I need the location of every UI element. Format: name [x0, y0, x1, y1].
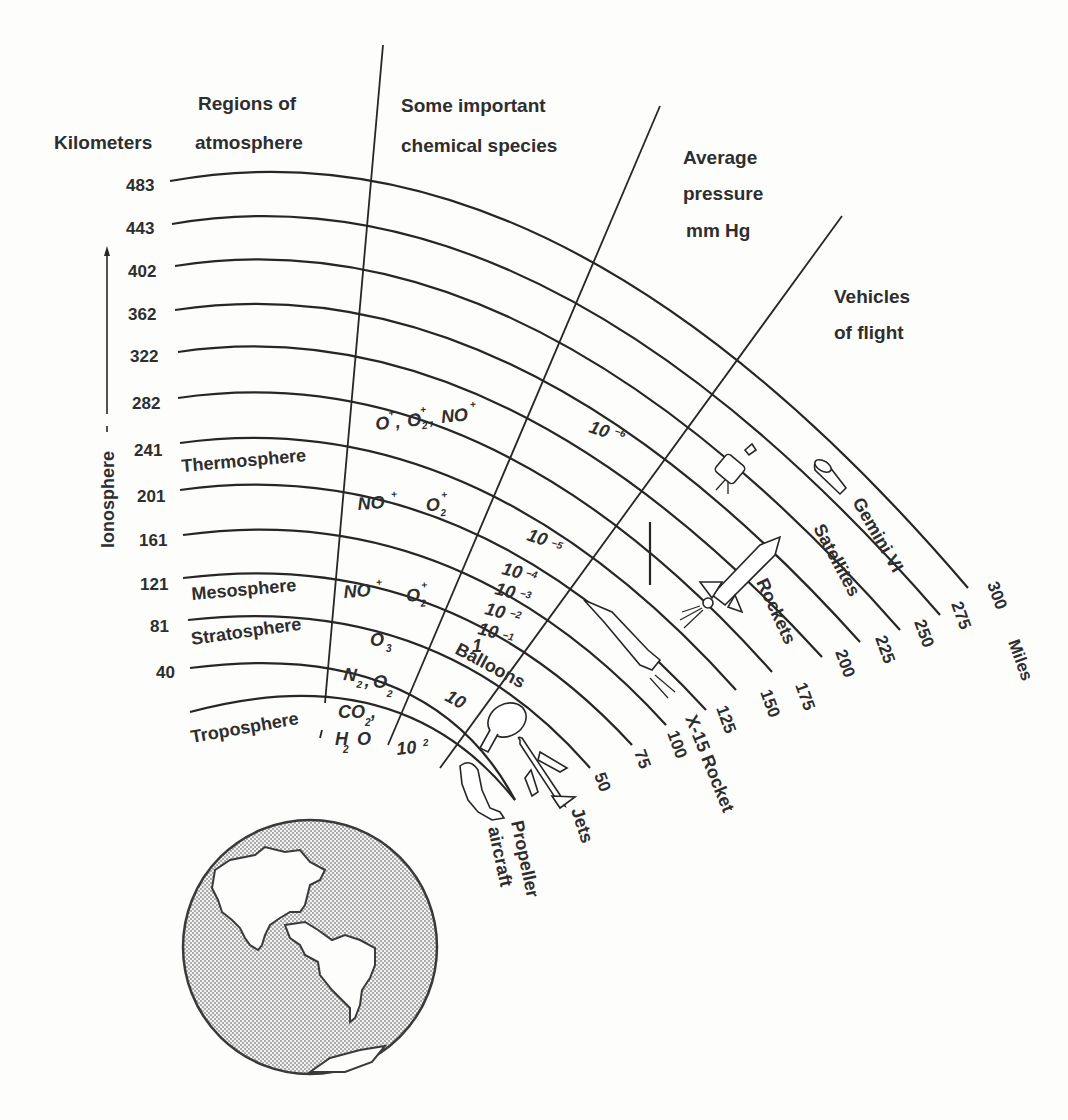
- svg-text:,: ,: [427, 408, 435, 429]
- atmosphere-diagram: Kilometers Regions of atmosphere Some im…: [0, 0, 1068, 1120]
- species-thermosphere-upper: O + , O + 2 , NO +: [374, 398, 478, 436]
- svg-text:+: +: [376, 576, 383, 587]
- pressure-1e2: 10 2: [395, 736, 430, 759]
- pressure-10: 10: [442, 686, 469, 713]
- svg-text:O: O: [370, 630, 384, 650]
- svg-text:O: O: [372, 671, 388, 692]
- km-label: 201: [137, 487, 165, 506]
- globe-icon: [183, 820, 437, 1074]
- vehicle-labels: Balloons Propeller aircraft Jets X-15 Ro…: [452, 494, 907, 899]
- svg-text:NO: NO: [343, 580, 371, 602]
- svg-text:2: 2: [419, 597, 427, 608]
- ionosphere-label: Ionosphere: [98, 451, 118, 548]
- header-regions-line1: Regions of: [198, 93, 297, 114]
- region-labels: Thermosphere Mesosphere Stratosphere Tro…: [181, 445, 307, 747]
- km-label: 282: [132, 394, 160, 413]
- svg-text:+: +: [469, 398, 476, 410]
- divider-tick: [320, 730, 322, 738]
- mile-label: 100: [663, 728, 691, 761]
- species-thermosphere-lower: NO + O + 2: [357, 485, 449, 524]
- svg-text:10: 10: [525, 525, 550, 550]
- mile-label: 125: [712, 703, 740, 736]
- region-mesosphere: Mesosphere: [191, 575, 297, 604]
- svg-text:−1: −1: [501, 629, 515, 643]
- svg-text:−2: −2: [509, 607, 523, 621]
- miles-unit: Miles: [1004, 637, 1036, 683]
- header-kilometers: Kilometers: [54, 132, 152, 153]
- svg-text:2: 2: [439, 507, 447, 518]
- mile-label: 50: [590, 770, 614, 794]
- mile-label: 250: [910, 617, 938, 650]
- svg-text:−3: −3: [519, 587, 533, 601]
- km-label: 483: [126, 176, 154, 195]
- km-label: 362: [128, 305, 156, 324]
- km-label: 40: [156, 663, 175, 682]
- gemini-capsule-icon: [813, 457, 846, 494]
- svg-text:O: O: [405, 585, 420, 606]
- header-pressure-line1: Average: [683, 147, 757, 168]
- km-label: 161: [139, 531, 167, 550]
- svg-text:2: 2: [385, 688, 393, 700]
- vehicle-rockets: Rockets: [752, 575, 800, 647]
- header-species-line1: Some important: [401, 95, 546, 116]
- km-label: 322: [130, 347, 158, 366]
- jet-icon: [518, 737, 575, 808]
- svg-text:+: +: [420, 404, 427, 416]
- pressure-1e-6: 10 −6: [587, 417, 628, 447]
- svg-text:,: ,: [370, 702, 376, 722]
- svg-text:2: 2: [355, 678, 363, 690]
- svg-text:O: O: [357, 729, 371, 749]
- mile-label: 75: [630, 747, 654, 771]
- divider-pressure-vehicles: [440, 216, 842, 768]
- km-label: 121: [140, 575, 168, 594]
- mile-label: 300: [983, 579, 1011, 612]
- svg-text:10: 10: [395, 737, 417, 759]
- km-label: 81: [150, 617, 169, 636]
- species-mesosphere: NO + O + 2: [343, 573, 429, 614]
- km-labels: 483 443 402 362 322 282 241 201 161 121 …: [126, 176, 175, 682]
- km-label: 402: [128, 262, 156, 281]
- arc-483: [170, 172, 968, 588]
- header-pressure-line3: mm Hg: [686, 220, 750, 241]
- altitude-arcs: [170, 172, 968, 800]
- mile-label: 175: [791, 680, 819, 713]
- region-troposphere: Troposphere: [189, 708, 300, 747]
- km-label: 241: [134, 441, 162, 460]
- svg-text:2: 2: [364, 717, 371, 728]
- species-h2o: H 2 O: [335, 729, 371, 755]
- svg-text:,: ,: [363, 670, 371, 691]
- svg-text:−6: −6: [613, 425, 628, 439]
- svg-text:2: 2: [342, 744, 349, 755]
- species-n2-o2: N 2 , O 2: [342, 664, 396, 699]
- arrow-up-icon: [104, 246, 110, 256]
- header-vehicles-line1: Vehicles: [834, 286, 910, 307]
- species-stratosphere-o3: O 3: [370, 630, 392, 654]
- svg-text:O: O: [425, 494, 440, 515]
- svg-text:+: +: [441, 489, 448, 500]
- species-co2: CO 2 ,: [338, 702, 376, 728]
- svg-text:2: 2: [421, 737, 429, 749]
- header-regions-line2: atmosphere: [195, 132, 303, 153]
- vehicle-satellites: Satellites: [809, 520, 864, 599]
- svg-text:+: +: [391, 488, 398, 499]
- svg-text:3: 3: [386, 643, 392, 654]
- svg-text:−4: −4: [525, 567, 539, 581]
- svg-text:−5: −5: [550, 537, 565, 551]
- mile-label: 150: [756, 687, 784, 720]
- svg-text:NO: NO: [440, 404, 469, 427]
- region-thermosphere: Thermosphere: [181, 445, 307, 476]
- radial-dividers: [320, 45, 842, 768]
- divider-regions-species: [325, 45, 383, 703]
- mile-label: 275: [947, 599, 975, 632]
- vehicle-jets: Jets: [567, 805, 597, 845]
- pressure-1e-5: 10 −5: [525, 525, 566, 555]
- mile-label: 200: [831, 647, 859, 680]
- km-label: 443: [126, 219, 154, 238]
- ionosphere-axis: Ionosphere: [98, 246, 118, 548]
- svg-text:CO: CO: [338, 702, 365, 722]
- header-vehicles-line2: of flight: [834, 322, 904, 343]
- svg-text:NO: NO: [357, 492, 385, 514]
- mile-label: 225: [871, 633, 899, 666]
- header-pressure-line2: pressure: [683, 183, 763, 204]
- satellite-icon: [714, 444, 756, 494]
